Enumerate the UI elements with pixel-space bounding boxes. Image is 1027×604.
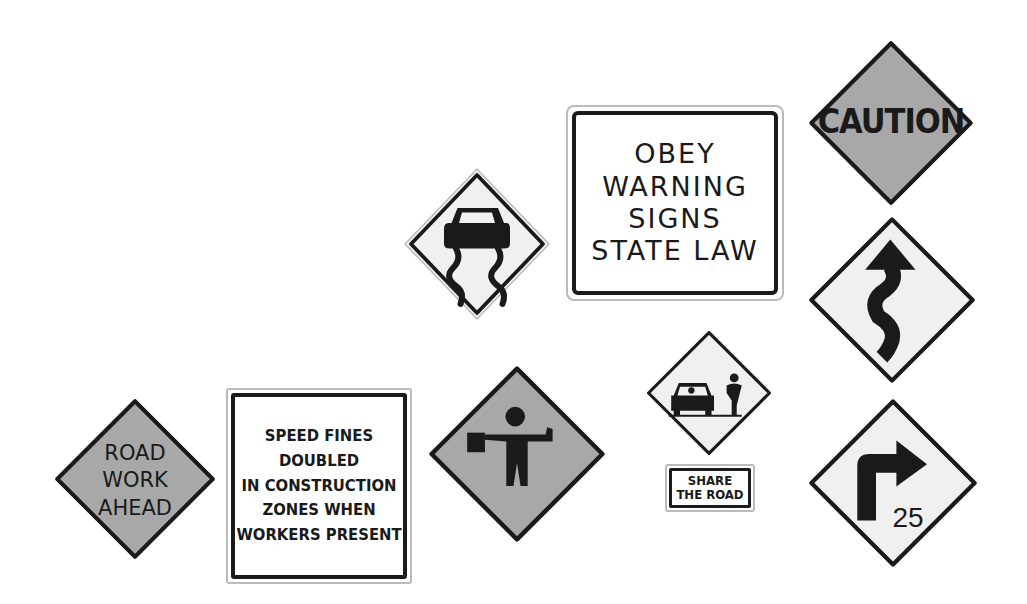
speed-line-1: SPEED FINES — [265, 424, 373, 449]
plaque-line-1: SHARE — [688, 474, 732, 488]
plaque-line-2: THE ROAD — [676, 488, 743, 502]
winding-road-sign — [808, 216, 976, 384]
road-work-line-1: ROAD — [54, 440, 216, 467]
obey-line-2: WARNING — [602, 171, 748, 203]
speed-line-5: WORKERS PRESENT — [236, 523, 401, 548]
road-work-line-3: AHEAD — [54, 495, 216, 522]
road-work-text: ROAD WORK AHEAD — [54, 440, 216, 522]
road-work-line-2: WORK — [54, 467, 216, 494]
obey-line-3: SIGNS — [628, 203, 721, 235]
speed-line-2: DOUBLED — [279, 449, 359, 474]
caution-text: CAUTION — [808, 102, 974, 140]
share-the-road-plaque: SHARE THE ROAD — [665, 464, 755, 512]
speed-fines-doubled-sign: SPEED FINES DOUBLED IN CONSTRUCTION ZONE… — [226, 388, 412, 584]
caution-sign: CAUTION — [808, 40, 974, 206]
speed-line-4: ZONES WHEN — [262, 498, 375, 523]
right-turn-arrow-icon — [808, 398, 978, 568]
obey-line-4: STATE LAW — [591, 235, 758, 267]
speed-advisory-text: 25 — [838, 502, 978, 533]
road-work-ahead-sign: ROAD WORK AHEAD — [54, 398, 216, 560]
right-turn-advisory-sign: 25 — [808, 398, 978, 568]
flagger-icon — [428, 364, 606, 544]
car-and-cyclist-icon — [646, 330, 772, 456]
slippery-road-car-icon — [402, 166, 552, 322]
speed-line-3: IN CONSTRUCTION — [242, 474, 397, 499]
slippery-road-sign — [402, 166, 552, 322]
flagger-sign — [428, 364, 606, 544]
winding-road-arrow-icon — [808, 216, 976, 384]
share-the-road-sign — [646, 330, 772, 456]
obey-line-1: OBEY — [634, 138, 715, 170]
obey-warning-signs-sign: OBEY WARNING SIGNS STATE LAW — [566, 105, 784, 301]
